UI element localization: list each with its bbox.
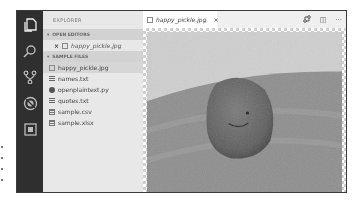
explorer-sidebar: EXPLORER ▾ OPEN EDITORS × happy_pickle.j…: [43, 11, 143, 192]
editor-actions: ◫ ···: [303, 11, 342, 28]
sidebar-title: EXPLORER: [43, 11, 143, 29]
python-file-icon: [49, 87, 55, 93]
table-file-icon: [49, 109, 55, 115]
tab-bar: happy_pickle.jpg × ◫ ···: [143, 11, 346, 29]
tab-happy-pickle[interactable]: happy_pickle.jpg ×: [143, 11, 217, 28]
split-editor-icon[interactable]: ◫: [320, 16, 327, 24]
close-icon[interactable]: ×: [213, 16, 218, 23]
text-file-icon: [49, 76, 55, 82]
image-file-icon: [147, 17, 153, 23]
sample-files-section-header[interactable]: ▾ SAMPLE FILES: [43, 51, 143, 62]
extensions-icon[interactable]: [22, 121, 38, 137]
file-item-sample-csv[interactable]: sample.csv: [43, 106, 143, 117]
editor-area: happy_pickle.jpg × ◫ ···: [143, 11, 346, 192]
activity-bar: [17, 11, 43, 192]
image-preview-background: [143, 28, 346, 192]
file-item-sample-xlsx[interactable]: sample.xlsx: [43, 117, 143, 128]
image-file-icon: [49, 65, 55, 71]
source-control-icon[interactable]: [22, 69, 38, 85]
vscode-window: EXPLORER ▾ OPEN EDITORS × happy_pickle.j…: [16, 10, 347, 193]
debug-icon[interactable]: [22, 95, 38, 111]
file-item-happy-pickle[interactable]: happy_pickle.jpg: [43, 62, 143, 73]
table-file-icon: [49, 120, 55, 126]
image-preview: [147, 32, 342, 192]
file-item-quotes-txt[interactable]: quotes.txt: [43, 95, 143, 106]
chevron-down-icon: ▾: [47, 51, 49, 62]
file-item-names-txt[interactable]: names.txt: [43, 73, 143, 84]
image-file-icon: [62, 43, 68, 49]
open-editors-section-header[interactable]: ▾ OPEN EDITORS: [43, 29, 143, 40]
files-icon[interactable]: [22, 17, 38, 33]
close-icon[interactable]: ×: [54, 40, 59, 51]
ellipsis-icon[interactable]: ···: [335, 16, 342, 24]
compare-icon[interactable]: [303, 15, 311, 25]
file-item-openplaintext-py[interactable]: openplaintext.py: [43, 84, 143, 95]
background-fragment: [1, 146, 5, 190]
text-file-icon: [49, 98, 55, 104]
chevron-down-icon: ▾: [47, 29, 49, 40]
search-icon[interactable]: [22, 43, 38, 59]
open-editor-item[interactable]: × happy_pickle.jpg: [43, 40, 143, 51]
